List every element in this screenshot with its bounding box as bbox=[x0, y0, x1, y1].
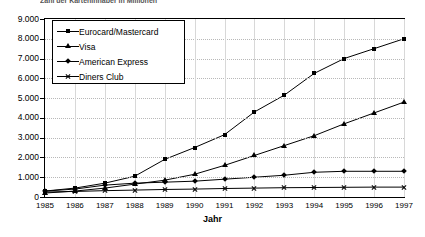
x-tick-label: 1987 bbox=[88, 201, 122, 211]
x-tick-label: 1991 bbox=[208, 201, 242, 211]
data-point-marker bbox=[311, 133, 317, 138]
legend-label: Diners Club bbox=[79, 72, 123, 82]
legend-label: Visa bbox=[79, 42, 95, 52]
data-point-marker bbox=[222, 162, 228, 167]
gridline-vertical bbox=[284, 19, 285, 197]
x-tick-label: 1989 bbox=[148, 201, 182, 211]
data-point-marker bbox=[281, 185, 287, 191]
data-point-marker bbox=[42, 189, 48, 195]
x-axis-labels: 1985198619871988198919901991199219931994… bbox=[0, 201, 425, 213]
data-point-marker bbox=[312, 71, 316, 75]
legend-marker-diamond-icon bbox=[57, 56, 79, 67]
gridline-vertical bbox=[254, 19, 255, 197]
y-tick-label: 8.000 bbox=[0, 34, 39, 43]
data-point-marker bbox=[252, 110, 256, 114]
data-point-marker bbox=[102, 188, 108, 194]
data-point-marker bbox=[72, 188, 78, 194]
y-tick-label: 3.000 bbox=[0, 133, 39, 142]
y-tick-label: 1.000 bbox=[0, 173, 39, 182]
data-point-marker bbox=[193, 146, 197, 150]
data-point-marker bbox=[163, 157, 167, 161]
data-point-marker bbox=[222, 185, 228, 191]
data-point-marker bbox=[282, 93, 286, 97]
y-tick-label: 5.000 bbox=[0, 94, 39, 103]
data-point-marker bbox=[341, 184, 347, 190]
chart-figure: Zahl der Karteninhaber in Millionen 01.0… bbox=[0, 0, 425, 237]
data-point-marker bbox=[341, 121, 347, 126]
data-point-marker bbox=[223, 133, 227, 137]
x-tick-label: 1995 bbox=[327, 201, 361, 211]
legend-marker-square-icon bbox=[57, 26, 79, 37]
x-tick-label: 1990 bbox=[178, 201, 212, 211]
legend-marker-cross-icon bbox=[57, 71, 79, 82]
x-tick-label: 1993 bbox=[267, 201, 301, 211]
x-axis-title: Jahr bbox=[0, 214, 425, 224]
gridline-vertical bbox=[225, 19, 226, 197]
data-point-marker bbox=[133, 174, 137, 178]
x-tick-label: 1985 bbox=[28, 201, 62, 211]
data-point-marker bbox=[132, 187, 138, 193]
x-tick-label: 1986 bbox=[58, 201, 92, 211]
legend-item[interactable]: Diners Club bbox=[57, 69, 184, 84]
data-point-marker bbox=[401, 184, 407, 190]
x-tick-label: 1996 bbox=[357, 201, 391, 211]
data-point-marker bbox=[402, 37, 406, 41]
x-tick-label: 1988 bbox=[118, 201, 152, 211]
y-tick-label: 2.000 bbox=[0, 153, 39, 162]
legend-item[interactable]: American Express bbox=[57, 54, 184, 69]
x-tick-label: 1997 bbox=[387, 201, 421, 211]
legend-item[interactable]: Eurocard/Mastercard bbox=[57, 24, 184, 39]
data-point-marker bbox=[371, 184, 377, 190]
data-point-marker bbox=[251, 185, 257, 191]
legend-label: American Express bbox=[79, 57, 148, 67]
legend-label: Eurocard/Mastercard bbox=[79, 27, 158, 37]
chart-legend: Eurocard/MastercardVisaAmerican ExpressD… bbox=[52, 20, 185, 84]
data-point-marker bbox=[162, 186, 168, 192]
data-point-marker bbox=[372, 47, 376, 51]
y-tick-label: 9.000 bbox=[0, 15, 39, 24]
y-tick-label: 4.000 bbox=[0, 113, 39, 122]
legend-item[interactable]: Visa bbox=[57, 39, 184, 54]
data-point-marker bbox=[192, 171, 198, 176]
x-tick-label: 1992 bbox=[237, 201, 271, 211]
legend-marker-triangle-icon bbox=[57, 41, 79, 52]
y-tick-label: 7.000 bbox=[0, 54, 39, 63]
data-point-marker bbox=[401, 99, 407, 104]
data-point-marker bbox=[342, 57, 346, 61]
data-point-marker bbox=[371, 110, 377, 115]
data-point-marker bbox=[281, 143, 287, 148]
data-point-marker bbox=[311, 185, 317, 191]
y-tick-label: 6.000 bbox=[0, 74, 39, 83]
x-tick-label: 1994 bbox=[297, 201, 331, 211]
data-point-marker bbox=[192, 186, 198, 192]
data-point-marker bbox=[251, 152, 257, 157]
